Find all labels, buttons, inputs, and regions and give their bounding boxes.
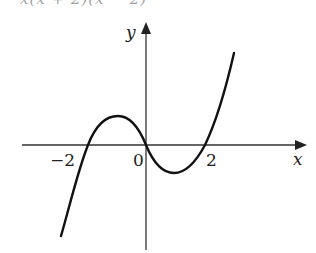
y-axis-arrow-icon [141,22,151,34]
tick-label-zero: 0 [133,150,144,170]
tick-label-neg-two: −2 [50,150,75,170]
cubic-graph: y x −2 0 2 [0,0,316,253]
y-axis-label: y [125,22,136,42]
x-axis-label: x [293,149,303,169]
tick-label-two: 2 [206,150,217,170]
